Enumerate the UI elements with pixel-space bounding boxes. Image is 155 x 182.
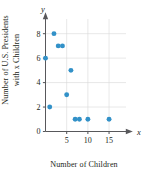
y-tick-label: 8 (37, 30, 41, 39)
y-tick-label: 4 (37, 78, 41, 87)
data-point (47, 105, 52, 110)
y-tick-label: 6 (37, 54, 41, 63)
y-axis-variable-label: y (40, 4, 45, 14)
plot-svg: 5101502468 x y (0, 0, 155, 182)
x-tick-label: 15 (105, 136, 113, 145)
gridlines-group (46, 19, 127, 132)
data-point (85, 117, 90, 122)
y-tick-label: 0 (37, 127, 41, 136)
data-point (64, 92, 69, 97)
data-point (43, 56, 48, 61)
data-point (73, 117, 78, 122)
x-tick-label: 5 (65, 136, 69, 145)
data-point (68, 68, 73, 73)
x-axis-title: Number of Children (20, 160, 148, 169)
data-point (52, 31, 57, 36)
x-tick-label: 10 (84, 136, 92, 145)
x-axis-arrowhead (126, 129, 133, 134)
y-tick-label: 2 (37, 103, 41, 112)
tick-labels-group: 5101502468 (37, 30, 114, 145)
data-point (56, 43, 61, 48)
data-points-group (43, 31, 111, 121)
data-point (60, 43, 65, 48)
x-axis-variable-label: x (136, 127, 141, 137)
data-point (77, 117, 82, 122)
data-point (107, 117, 112, 122)
scatter-plot-figure: Number of U.S. Presidents with x Childre… (0, 0, 155, 182)
